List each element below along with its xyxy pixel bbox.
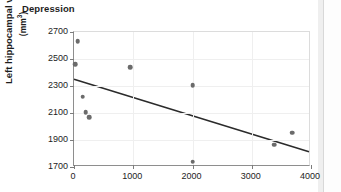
gridline-vertical bbox=[252, 32, 253, 165]
y-axis-label: Left hippocampal volumne (mm3) bbox=[4, 0, 28, 88]
y-axis-tick bbox=[70, 140, 74, 141]
plot-area bbox=[73, 31, 310, 166]
gridline-horizontal bbox=[74, 59, 309, 60]
data-point bbox=[87, 115, 92, 120]
data-point bbox=[73, 62, 78, 67]
adjacent-page-edge bbox=[324, 0, 341, 192]
x-axis-tick bbox=[193, 165, 194, 169]
y-axis-label-text: Left hippocampal volumne bbox=[3, 0, 14, 84]
gridline-vertical bbox=[133, 32, 134, 165]
chart-title: Depression bbox=[22, 3, 75, 14]
gridline-horizontal bbox=[74, 113, 309, 114]
data-point bbox=[81, 95, 86, 100]
data-point bbox=[128, 65, 133, 70]
x-axis-tick bbox=[252, 165, 253, 169]
x-axis-tick-label: 2000 bbox=[172, 171, 212, 181]
y-axis-tick bbox=[70, 113, 74, 114]
gridline-horizontal bbox=[74, 140, 309, 141]
gridline-vertical bbox=[193, 32, 194, 165]
y-axis-tick-label: 2300 bbox=[42, 80, 68, 90]
x-axis-tick-label: 1000 bbox=[112, 171, 152, 181]
y-axis-tick-label: 2500 bbox=[42, 53, 68, 63]
x-axis-tick-label: 3000 bbox=[231, 171, 271, 181]
y-axis-tick-label: 2700 bbox=[42, 26, 68, 36]
y-axis-tick bbox=[70, 86, 74, 87]
y-axis-tick-label: 1900 bbox=[42, 134, 68, 144]
x-axis-tick-label: 4000 bbox=[290, 171, 330, 181]
x-axis-tick bbox=[74, 165, 75, 169]
y-axis-unit: (mm3) bbox=[15, 0, 28, 88]
y-axis-tick bbox=[70, 32, 74, 33]
y-axis-tick bbox=[70, 59, 74, 60]
data-point bbox=[84, 110, 89, 115]
y-axis-tick-label: 2100 bbox=[42, 107, 68, 117]
data-point bbox=[190, 83, 195, 88]
x-axis-tick bbox=[133, 165, 134, 169]
data-point bbox=[272, 142, 277, 147]
data-point bbox=[290, 130, 295, 135]
figure-panel: Depression Left hippocampal volumne (mm3… bbox=[0, 0, 341, 192]
data-point bbox=[190, 159, 195, 164]
x-axis-tick-label: 0 bbox=[53, 171, 93, 181]
data-point bbox=[75, 39, 80, 44]
x-axis-tick bbox=[311, 165, 312, 169]
y-axis-tick-label: 1700 bbox=[42, 161, 68, 171]
